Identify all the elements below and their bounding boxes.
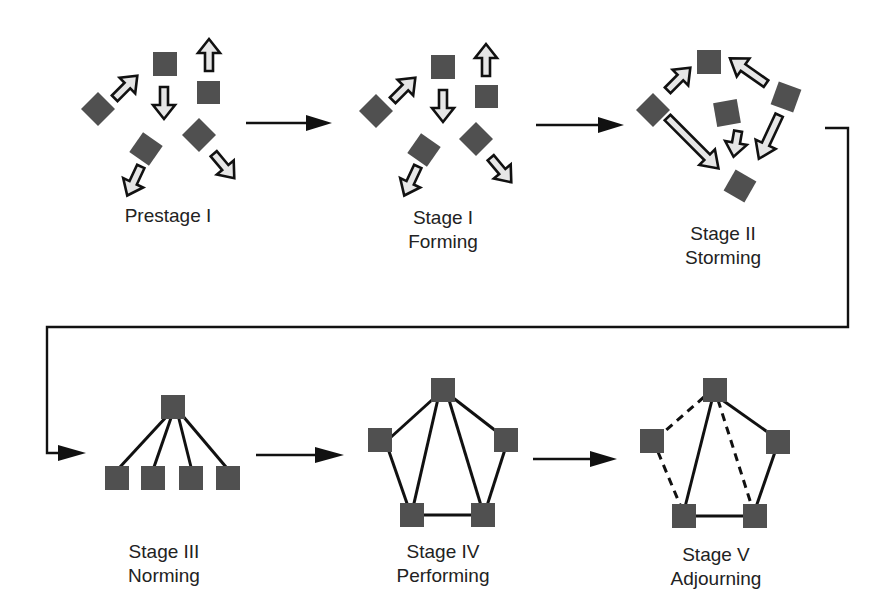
member-node	[640, 429, 664, 453]
outward-arrow-icon	[475, 44, 497, 76]
member-node	[766, 430, 790, 454]
member-node	[724, 170, 757, 203]
outward-arrow-icon	[117, 162, 150, 200]
stage-title: Stage III	[84, 540, 244, 564]
stage5-network	[640, 378, 790, 528]
flow-arrow	[256, 447, 344, 463]
outward-arrow-icon	[432, 90, 454, 122]
member-node	[471, 503, 495, 527]
member-node	[179, 466, 203, 490]
stage-title: Stage I	[363, 206, 523, 230]
member-node	[153, 52, 177, 76]
leader-node	[161, 395, 185, 419]
member-node	[182, 118, 216, 152]
member-node	[703, 378, 727, 402]
stage1-cluster	[359, 44, 520, 200]
stage-label-prestage: Prestage I	[88, 204, 248, 228]
member-node	[141, 466, 165, 490]
flow-arrow	[536, 117, 624, 133]
group-development-diagram	[0, 0, 887, 602]
outward-arrow-icon	[394, 162, 427, 200]
stage-subtitle: Forming	[363, 230, 523, 254]
outward-arrow-icon	[107, 68, 145, 106]
stage-label-stage5: Stage V Adjourning	[636, 543, 796, 591]
member-node	[431, 55, 455, 79]
stage-subtitle: Storming	[643, 246, 803, 270]
stage-title: Stage V	[636, 543, 796, 567]
member-node	[359, 94, 393, 128]
member-node	[400, 503, 424, 527]
member-node	[743, 504, 767, 528]
stage-title: Stage II	[643, 222, 803, 246]
stage-label-stage3: Stage III Norming	[84, 540, 244, 588]
member-node	[475, 85, 498, 108]
member-node	[105, 466, 129, 490]
stage-label-stage2: Stage II Storming	[643, 222, 803, 270]
stage-title: Prestage I	[88, 204, 248, 228]
member-node	[81, 92, 115, 126]
stage-subtitle: Adjourning	[636, 567, 796, 591]
stage4-network	[368, 378, 518, 527]
member-node	[216, 466, 240, 490]
outward-arrow-icon	[482, 151, 519, 190]
stage-title: Stage IV	[363, 540, 523, 564]
member-node	[672, 504, 696, 528]
prestage-cluster	[81, 39, 243, 200]
member-node	[771, 82, 802, 113]
stage-label-stage1: Stage I Forming	[363, 206, 523, 254]
member-node	[713, 99, 741, 127]
conflict-arrow-icon	[723, 129, 749, 158]
member-node	[129, 132, 162, 165]
outward-arrow-icon	[153, 87, 175, 119]
flow-arrow	[246, 115, 332, 131]
outward-arrow-icon	[198, 39, 220, 71]
stage2-cluster	[636, 49, 801, 202]
outward-arrow-icon	[385, 70, 423, 108]
stage3-hierarchy	[105, 395, 240, 490]
member-node	[494, 428, 518, 452]
conflict-arrow-icon	[660, 60, 698, 98]
flow-arrow	[533, 451, 617, 467]
member-node	[697, 50, 721, 74]
member-node	[431, 378, 455, 402]
outward-arrow-icon	[205, 147, 242, 186]
conflict-arrow-icon	[749, 111, 789, 164]
conflict-arrow-icon	[724, 49, 773, 92]
stage-subtitle: Performing	[363, 564, 523, 588]
member-node	[407, 133, 440, 166]
stage-label-stage4: Stage IV Performing	[363, 540, 523, 588]
member-node	[197, 81, 220, 104]
stage-subtitle: Norming	[84, 564, 244, 588]
member-node	[459, 122, 493, 156]
member-node	[368, 428, 392, 452]
